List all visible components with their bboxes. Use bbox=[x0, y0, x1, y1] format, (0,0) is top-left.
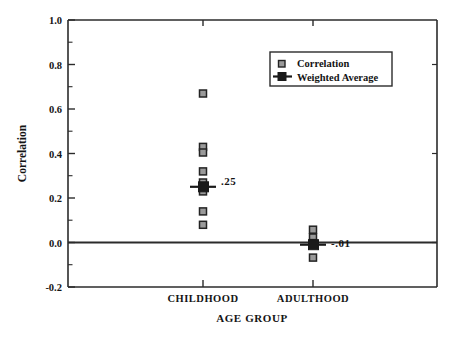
y-tick-label-2: 0.8 bbox=[49, 60, 62, 71]
data-point bbox=[200, 168, 207, 175]
scatter-plot-figure: 1.0 0.8 0.6 0.4 0.2 0.0 -0.2 Correlation bbox=[0, 0, 460, 338]
y-axis-title: Correlation bbox=[16, 124, 28, 182]
legend-label-weighted-average: Weighted Average bbox=[297, 72, 379, 83]
data-point bbox=[310, 226, 317, 233]
y-tick-label-7: -0.2 bbox=[45, 282, 62, 293]
data-point bbox=[310, 254, 317, 261]
y-tick-label-6: 0.0 bbox=[49, 238, 62, 249]
y-tick-label-5: 0.2 bbox=[49, 193, 62, 204]
chart-svg: 1.0 0.8 0.6 0.4 0.2 0.0 -0.2 Correlation bbox=[0, 0, 460, 338]
y-tick-label-3: 0.6 bbox=[49, 104, 62, 115]
legend: Correlation Weighted Average bbox=[270, 52, 392, 86]
x-category-label-adulthood: ADULTHOOD bbox=[277, 293, 349, 304]
x-axis-title: AGE GROUP bbox=[216, 312, 288, 324]
legend-label-correlation: Correlation bbox=[297, 58, 349, 69]
y-tick-label-1: 1.0 bbox=[49, 15, 62, 26]
adulthood-average-annotation: -.01 bbox=[331, 237, 350, 249]
data-point bbox=[200, 221, 207, 228]
data-point bbox=[200, 90, 207, 97]
data-point bbox=[200, 208, 207, 215]
x-category-label-childhood: CHILDHOOD bbox=[167, 293, 238, 304]
childhood-average-annotation: .25 bbox=[221, 175, 236, 187]
y-tick-label-4: 0.4 bbox=[49, 149, 63, 160]
open-square-icon bbox=[279, 61, 286, 68]
filled-square-icon bbox=[278, 73, 286, 81]
data-point bbox=[200, 149, 207, 156]
